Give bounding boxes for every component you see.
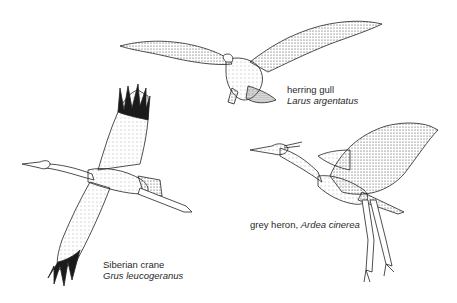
grey-heron-drawing (250, 123, 438, 282)
herring-gull-scientific-name: Larus argentatus (287, 95, 358, 106)
herring-gull-label: herring gull Larus argentatus (287, 84, 358, 106)
grey-heron-common-name: grey heron, (250, 219, 301, 230)
bird-illustration-plate: herring gull Larus argentatus Siberian c… (0, 0, 457, 303)
grey-heron-label: grey heron, Ardea cinerea (250, 219, 360, 230)
siberian-crane-drawing (22, 84, 192, 286)
herring-gull-common-name: herring gull (287, 84, 358, 95)
siberian-crane-label: Siberian crane Grus leucogeranus (103, 259, 183, 281)
grey-heron-scientific-name: Ardea cinerea (301, 219, 360, 230)
siberian-crane-scientific-name: Grus leucogeranus (103, 270, 183, 281)
siberian-crane-common-name: Siberian crane (103, 259, 183, 270)
birds-artwork (0, 0, 457, 303)
